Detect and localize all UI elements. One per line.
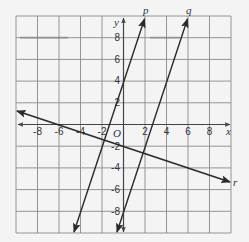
- y-tick-label: 4: [114, 75, 120, 86]
- y-tick-label: 6: [114, 54, 120, 65]
- x-tick-label: -8: [33, 126, 42, 137]
- x-tick-label: 4: [164, 126, 170, 137]
- line-r-label: r: [233, 176, 238, 188]
- y-tick-label: -8: [111, 206, 120, 217]
- x-axis-label: x: [225, 125, 231, 137]
- x-tick-label: 6: [185, 126, 191, 137]
- smudge: [20, 37, 68, 40]
- y-tick-label: -6: [111, 184, 120, 195]
- x-tick-label: -6: [55, 126, 64, 137]
- line-q: [117, 19, 188, 232]
- x-tick-labels: -8 -6 -4 -2 2 4 6 8: [33, 126, 213, 137]
- coordinate-plane-graph: -8 -6 -4 -2 2 4 6 8 8 6 4 2 -2 -4 -6 -8 …: [0, 0, 249, 242]
- origin-label: O: [113, 127, 121, 139]
- x-tick-label: 2: [142, 126, 148, 137]
- y-axis-label: y: [113, 16, 119, 28]
- y-tick-label: -4: [111, 162, 120, 173]
- line-q-label: q: [186, 4, 192, 16]
- y-tick-label: 8: [114, 32, 120, 43]
- line-p-label: p: [142, 4, 149, 16]
- x-tick-label: 8: [207, 126, 213, 137]
- smudge: [150, 37, 180, 40]
